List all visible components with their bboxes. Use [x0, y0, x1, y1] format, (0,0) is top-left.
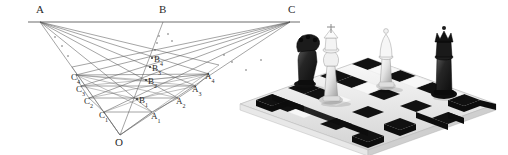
rays-from-A — [40, 22, 219, 135]
point-label-C2: C2 — [84, 97, 93, 106]
point-label-A3: A3 — [192, 85, 202, 94]
chessboard-render — [228, 0, 508, 155]
point-label-A2: A2 — [176, 97, 186, 106]
vanishing-point-label-A: A — [36, 4, 44, 15]
point-label-C4: C4 — [71, 73, 80, 82]
point-label-A4: A4 — [205, 72, 215, 81]
point-label-B1: B1 — [139, 96, 148, 105]
point-label-B2: B2 — [148, 77, 157, 86]
point-label-C1: C1 — [99, 111, 108, 120]
figure-container: A B C O A1 A2 A3 A4 B1 B2 B3 B4 C1 C2 C3… — [0, 0, 508, 155]
station-point-label-O: O — [115, 137, 123, 148]
point-label-C3: C3 — [76, 85, 85, 94]
vanishing-point-label-B: B — [159, 4, 166, 15]
point-label-B4: B4 — [154, 55, 163, 64]
point-label-A1: A1 — [151, 112, 161, 121]
